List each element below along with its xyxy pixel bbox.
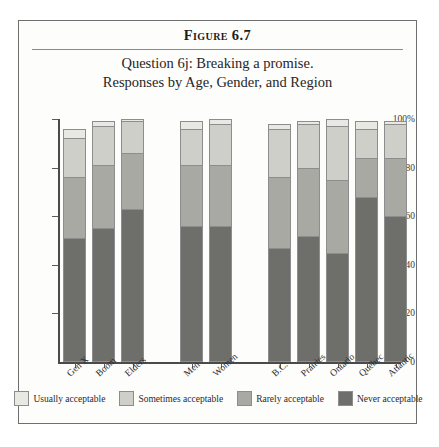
bar-segment: [297, 168, 320, 236]
bar-segment: [384, 216, 407, 362]
figure-number: Figure 6.7: [19, 27, 416, 44]
bar-prairies[interactable]: [297, 121, 320, 362]
bar-segment: [326, 253, 349, 362]
bar-segment: [92, 165, 115, 228]
legend-item[interactable]: Sometimes acceptable: [119, 391, 223, 406]
bar-segment: [63, 129, 86, 139]
bar-segment: [121, 153, 144, 209]
bar-segment: [209, 165, 232, 226]
bar-segment: [326, 119, 349, 126]
y-tick-mark: [52, 216, 58, 217]
bar-segment: [63, 238, 86, 362]
bar-segment: [355, 121, 378, 128]
bar-segment: [268, 129, 291, 178]
bar-segment: [355, 129, 378, 158]
y-tick-mark: [52, 313, 58, 314]
chart-legend: Usually acceptableSometimes acceptableRa…: [19, 391, 418, 406]
legend-label: Rarely acceptable: [256, 394, 324, 404]
bar-segment: [297, 236, 320, 362]
bar-segment: [209, 124, 232, 165]
bar-segment: [384, 124, 407, 158]
bar-segment: [384, 158, 407, 216]
bar-women[interactable]: [209, 119, 232, 362]
chart-plot: 020406080100% Gen XBoomEldersMenWomenB.C…: [19, 107, 415, 382]
legend-swatch: [338, 391, 353, 406]
bar-segment: [297, 124, 320, 168]
bar-segment: [92, 228, 115, 362]
bar-segment: [180, 226, 203, 362]
bar-boom[interactable]: [92, 121, 115, 362]
bar-segment: [63, 138, 86, 177]
bar-segment: [326, 180, 349, 253]
bar-atlantic[interactable]: [384, 121, 407, 362]
bar-segment: [355, 158, 378, 197]
bar-segment: [268, 177, 291, 247]
legend-item[interactable]: Usually acceptable: [14, 391, 105, 406]
legend-swatch: [237, 391, 252, 406]
y-tick-mark: [52, 168, 58, 169]
bar-gen-x[interactable]: [63, 129, 86, 362]
caption-line-2: Responses by Age, Gender, and Region: [29, 73, 406, 92]
legend-swatch: [14, 391, 29, 406]
caption-line-1: Question 6j: Breaking a promise.: [29, 54, 406, 73]
bar-segment: [121, 121, 144, 153]
legend-item[interactable]: Never acceptable: [338, 391, 423, 406]
bar-segment: [268, 248, 291, 362]
bar-elders[interactable]: [121, 119, 144, 362]
y-tick-mark: [52, 119, 58, 120]
bar-segment: [355, 197, 378, 362]
y-tick-mark: [52, 265, 58, 266]
bar-segment: [180, 121, 203, 128]
bar-qu-bec[interactable]: [355, 121, 378, 362]
bar-segment: [121, 209, 144, 362]
bar-men[interactable]: [180, 121, 203, 362]
bar-segment: [63, 177, 86, 238]
legend-swatch: [119, 391, 134, 406]
legend-item[interactable]: Rarely acceptable: [237, 391, 324, 406]
bar-segment: [92, 126, 115, 165]
legend-label: Sometimes acceptable: [138, 394, 223, 404]
figure-box: Figure 6.7 Question 6j: Breaking a promi…: [18, 20, 417, 424]
legend-label: Usually acceptable: [33, 394, 105, 404]
figure-header: Figure 6.7: [19, 21, 416, 50]
figure-caption: Question 6j: Breaking a promise. Respons…: [19, 50, 416, 92]
bar-ontario[interactable]: [326, 119, 349, 362]
bar-segment: [180, 165, 203, 226]
legend-label: Never acceptable: [357, 394, 423, 404]
bar-b-c[interactable]: [268, 124, 291, 362]
bar-segment: [209, 226, 232, 362]
bar-segment: [180, 129, 203, 165]
bar-segment: [326, 126, 349, 179]
bars-container: [59, 119, 400, 362]
